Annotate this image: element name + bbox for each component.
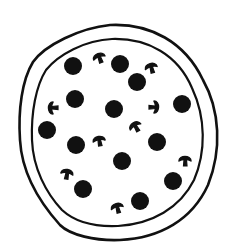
pepperoni-slice bbox=[64, 57, 82, 75]
pepperoni-slice bbox=[67, 136, 85, 154]
pepperoni-slice bbox=[173, 95, 191, 113]
pepperoni-slice bbox=[74, 180, 92, 198]
pepperoni-slice bbox=[111, 55, 129, 73]
pizza-illustration bbox=[0, 0, 233, 252]
pepperoni-slice bbox=[131, 192, 149, 210]
pepperoni-slice bbox=[105, 100, 123, 118]
pepperoni-group bbox=[38, 55, 191, 210]
mushroom-icon bbox=[92, 52, 107, 65]
mushroom-group bbox=[49, 52, 192, 215]
pepperoni-slice bbox=[148, 133, 166, 151]
pepperoni-slice bbox=[38, 121, 56, 139]
mushroom-icon bbox=[128, 120, 143, 134]
mushroom-icon bbox=[144, 62, 158, 74]
mushroom-icon bbox=[92, 136, 105, 147]
pepperoni-slice bbox=[164, 172, 182, 190]
pepperoni-slice bbox=[66, 90, 84, 108]
pepperoni-slice bbox=[128, 73, 146, 91]
pizza-drawing bbox=[0, 0, 233, 252]
mushroom-icon bbox=[179, 157, 191, 167]
mushroom-icon bbox=[49, 102, 59, 114]
pepperoni-slice bbox=[113, 152, 131, 170]
mushroom-icon bbox=[60, 169, 73, 180]
mushroom-icon bbox=[149, 101, 159, 113]
mushroom-icon bbox=[110, 202, 124, 214]
